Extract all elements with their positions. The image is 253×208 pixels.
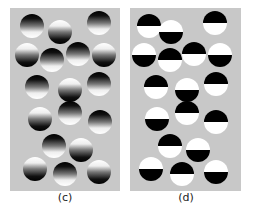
shaded-circle-dark-top <box>20 14 44 38</box>
shaded-circle-light-top <box>159 20 183 44</box>
shaded-circle-light-top <box>92 43 116 67</box>
shaded-circle-light-top <box>69 138 93 162</box>
shaded-circle-dark-top <box>158 134 182 158</box>
shaded-circle-dark-top <box>170 162 194 186</box>
shaded-circle-dark-top <box>158 48 182 72</box>
shaded-circle-light-top <box>28 107 52 131</box>
shaded-circle-light-top <box>175 78 199 102</box>
shaded-circle-dark-top <box>203 11 227 35</box>
shaded-circle-dark-top <box>42 134 66 158</box>
shaded-circle-dark-top <box>25 75 49 99</box>
shaded-circle-dark-top <box>144 75 168 99</box>
shaded-circle-dark-top <box>66 42 90 66</box>
shaded-circle-dark-top <box>58 101 82 125</box>
shaded-circle-light-top <box>48 20 72 44</box>
shaded-circle-light-top <box>87 160 111 184</box>
shaded-circle-light-top <box>23 157 47 181</box>
shaded-circle-light-top <box>186 138 210 162</box>
shaded-circle-light-top <box>139 157 163 181</box>
shaded-circle-dark-top <box>88 110 112 134</box>
shaded-circle-light-top <box>15 43 39 67</box>
shaded-circle-dark-top <box>53 162 77 186</box>
shaded-circle-light-top <box>132 43 156 67</box>
shaded-circle-light-top <box>208 43 232 67</box>
shaded-circle-dark-top <box>137 14 161 38</box>
shaded-circle-dark-top <box>87 11 111 35</box>
shaded-circle-light-top <box>58 78 82 102</box>
shaded-circle-light-top <box>204 160 228 184</box>
shaded-circle-dark-top <box>40 48 64 72</box>
panel-label-d: (d) <box>178 191 194 204</box>
shaded-circle-dark-top <box>204 72 228 96</box>
shaded-circle-dark-top <box>204 110 228 134</box>
shaded-circle-dark-top <box>182 42 206 66</box>
panel-label-c: (c) <box>58 191 73 204</box>
shaded-circle-dark-top <box>175 101 199 125</box>
shaded-circle-dark-top <box>87 72 111 96</box>
shaded-circle-light-top <box>145 107 169 131</box>
